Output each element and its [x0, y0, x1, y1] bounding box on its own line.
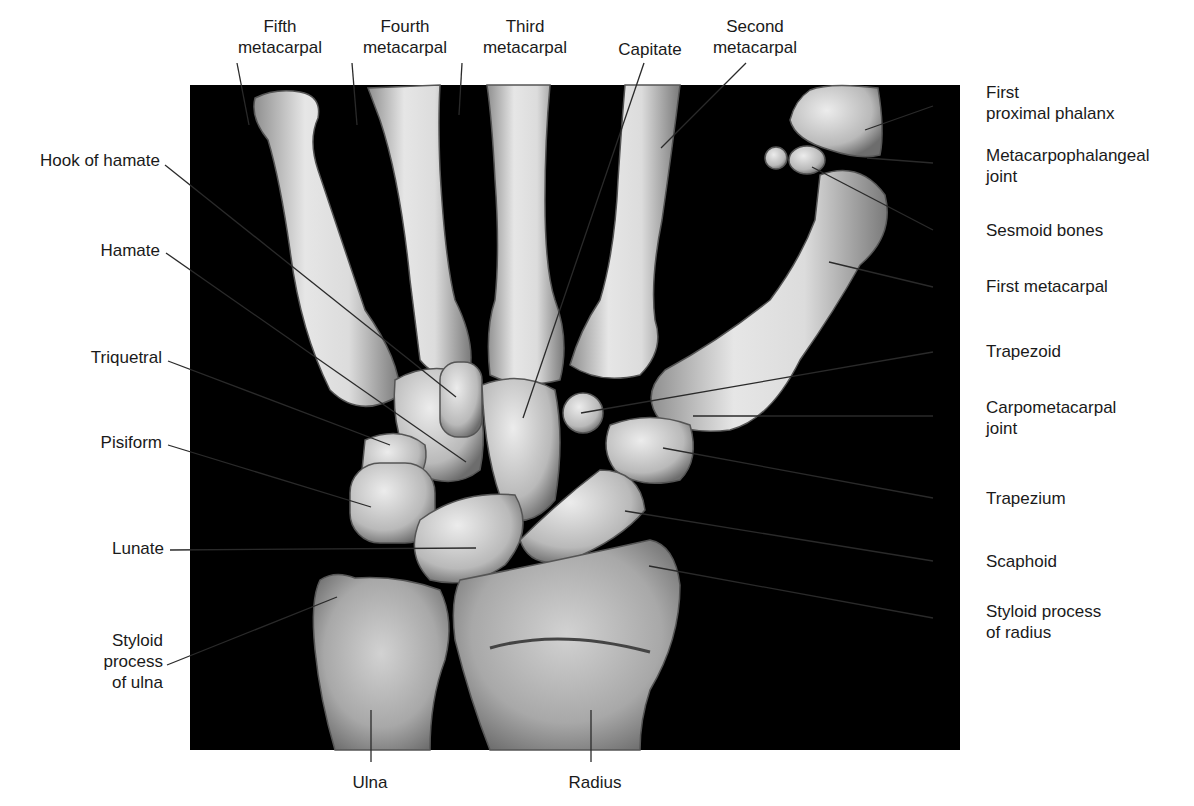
label-styloid-process-of-radius: Styloid processof radius: [986, 601, 1156, 643]
label-carpometacarpal-joint: Carpometacarpaljoint: [986, 397, 1156, 439]
label-second-metacarpal: Secondmetacarpal: [700, 16, 810, 58]
label-text-line: Ulna: [340, 772, 400, 793]
label-ulna: Ulna: [340, 772, 400, 793]
label-text-line: First: [986, 82, 1176, 103]
label-text-line: Trapezium: [986, 488, 1106, 509]
label-fifth-metacarpal: Fifthmetacarpal: [230, 16, 330, 58]
label-text-line: Sesmoid bones: [986, 220, 1146, 241]
label-styloid-process-of-ulna: Styloidprocessof ulna: [60, 630, 163, 693]
label-third-metacarpal: Thirdmetacarpal: [470, 16, 580, 58]
label-trapezoid: Trapezoid: [986, 341, 1106, 362]
label-text-line: metacarpal: [700, 37, 810, 58]
label-text-line: Radius: [560, 772, 630, 793]
label-scaphoid: Scaphoid: [986, 551, 1096, 572]
label-hamate: Hamate: [60, 240, 160, 261]
label-pisiform: Pisiform: [60, 432, 162, 453]
label-text-line: of ulna: [60, 672, 163, 693]
sesmoid-bone-2: [789, 146, 825, 174]
label-text-line: Second: [700, 16, 810, 37]
label-text-line: of radius: [986, 622, 1156, 643]
ulna-bone: [313, 574, 449, 750]
label-text-line: metacarpal: [470, 37, 580, 58]
label-text-line: Lunate: [60, 538, 164, 559]
label-lunate: Lunate: [60, 538, 164, 559]
label-text-line: Trapezoid: [986, 341, 1106, 362]
label-metacarpophalangeal-joint: Metacarpophalangealjoint: [986, 145, 1186, 187]
label-radius: Radius: [560, 772, 630, 793]
hook-of-hamate-bone: [440, 362, 482, 437]
label-text-line: Scaphoid: [986, 551, 1096, 572]
label-text-line: Styloid process: [986, 601, 1156, 622]
label-text-line: Triquetral: [60, 347, 162, 368]
label-text-line: Fourth: [350, 16, 460, 37]
label-text-line: Capitate: [605, 39, 695, 60]
label-text-line: Styloid: [60, 630, 163, 651]
label-text-line: Hook of hamate: [10, 150, 160, 171]
label-first-metacarpal: First metacarpal: [986, 276, 1156, 297]
label-text-line: First metacarpal: [986, 276, 1156, 297]
label-sesmoid-bones: Sesmoid bones: [986, 220, 1146, 241]
label-text-line: Third: [470, 16, 580, 37]
label-text-line: joint: [986, 166, 1186, 187]
label-text-line: metacarpal: [230, 37, 330, 58]
label-fourth-metacarpal: Fourthmetacarpal: [350, 16, 460, 58]
sesmoid-bone-1: [765, 147, 787, 169]
label-text-line: Fifth: [230, 16, 330, 37]
label-hook-of-hamate: Hook of hamate: [10, 150, 160, 171]
label-text-line: Pisiform: [60, 432, 162, 453]
label-first-proximal-phalanx: Firstproximal phalanx: [986, 82, 1176, 124]
label-capitate: Capitate: [605, 39, 695, 60]
label-text-line: process: [60, 651, 163, 672]
label-text-line: joint: [986, 418, 1156, 439]
label-triquetral: Triquetral: [60, 347, 162, 368]
label-text-line: Metacarpophalangeal: [986, 145, 1186, 166]
label-trapezium: Trapezium: [986, 488, 1106, 509]
label-text-line: Hamate: [60, 240, 160, 261]
label-text-line: proximal phalanx: [986, 103, 1176, 124]
label-text-line: Carpometacarpal: [986, 397, 1156, 418]
label-text-line: metacarpal: [350, 37, 460, 58]
